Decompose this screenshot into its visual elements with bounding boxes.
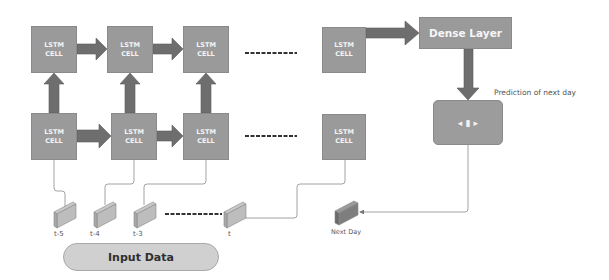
arrow-right-bottom-2 <box>157 125 183 147</box>
lstm-cell-label: LSTM <box>334 41 354 50</box>
input-label-t5: t-5 <box>54 230 64 238</box>
lstm-cell-bottom-3: LSTM CELL <box>183 113 229 160</box>
lstm-cell-top-2: LSTM CELL <box>107 26 153 73</box>
lstm-cell-label: LSTM <box>120 41 140 50</box>
lstm-cell-label: CELL <box>125 137 143 146</box>
lstm-cell-top-last: LSTM CELL <box>322 27 366 73</box>
dense-layer-label: Dense Layer <box>429 27 502 39</box>
lstm-cell-label: LSTM <box>334 128 354 137</box>
lstm-cell-label: CELL <box>45 137 63 146</box>
arrow-right-to-dense <box>366 21 419 45</box>
lstm-cell-label: LSTM <box>124 128 144 137</box>
input-slab-t5 <box>54 202 76 228</box>
input-slab-t <box>224 202 246 228</box>
input-label-t4: t-4 <box>90 230 100 238</box>
input-slab-t3 <box>134 202 156 228</box>
arrow-right-top-2 <box>153 38 183 60</box>
lstm-cell-top-3: LSTM CELL <box>183 26 229 73</box>
lstm-cell-label: CELL <box>45 50 63 59</box>
lstm-cell-label: CELL <box>197 50 215 59</box>
arrow-up-3 <box>196 73 216 113</box>
arrow-down-from-dense <box>457 49 479 100</box>
lstm-cell-label: CELL <box>335 137 353 146</box>
input-slab-t4 <box>94 202 116 228</box>
lstm-cell-label: LSTM <box>44 41 64 50</box>
output-node-icon: ◂ ▮ ▸ <box>458 118 478 128</box>
connector-t5 <box>54 160 65 207</box>
input-data-label: Input Data <box>108 251 174 264</box>
input-label-t: t <box>228 230 231 238</box>
next-day-label: Next Day <box>331 228 361 236</box>
lstm-cell-bottom-2: LSTM CELL <box>111 113 157 160</box>
connector-t4 <box>105 160 134 205</box>
connector-t <box>245 160 345 218</box>
lstm-cell-label: LSTM <box>44 128 64 137</box>
lstm-cell-bottom-1: LSTM CELL <box>31 113 77 160</box>
arrow-up-2 <box>120 73 140 113</box>
connector-output-next-day <box>360 145 468 212</box>
output-node: ◂ ▮ ▸ <box>433 100 503 145</box>
lstm-cell-top-1: LSTM CELL <box>31 26 77 73</box>
prediction-label: Prediction of next day <box>494 88 576 97</box>
lstm-cell-label: LSTM <box>196 128 216 137</box>
lstm-cell-label: CELL <box>121 50 139 59</box>
connectors-layer <box>0 0 609 280</box>
lstm-cell-bottom-last: LSTM CELL <box>322 114 366 160</box>
lstm-cell-label: CELL <box>197 137 215 146</box>
arrow-right-top-1 <box>77 38 107 60</box>
input-label-t3: t-3 <box>133 230 143 238</box>
next-day-slab <box>335 201 358 225</box>
lstm-cell-label: LSTM <box>196 41 216 50</box>
dense-layer-box: Dense Layer <box>419 17 512 49</box>
arrow-up-1 <box>44 73 64 113</box>
connector-t3 <box>144 160 206 205</box>
arrow-right-bottom-1 <box>77 124 111 148</box>
lstm-cell-label: CELL <box>335 50 353 59</box>
input-data-pill: Input Data <box>63 243 219 271</box>
